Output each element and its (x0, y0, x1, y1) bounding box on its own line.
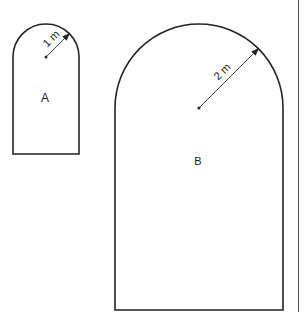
shape-b-outline (115, 24, 283, 310)
shape-b-radius-label: 2 m (211, 61, 232, 82)
shape-b-label: B (194, 155, 201, 167)
shape-a-label: A (41, 91, 49, 105)
diagram-canvas: 1 m A 2 m B (0, 0, 301, 330)
shape-a-radius-label: 1 m (40, 28, 61, 49)
shape-b-radius-arrow (199, 49, 258, 108)
shape-b: 2 m B (115, 24, 283, 310)
shape-a: 1 m A (13, 24, 79, 154)
